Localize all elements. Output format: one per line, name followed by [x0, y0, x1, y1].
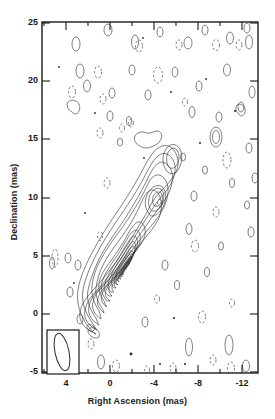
- restoring-beam: [47, 330, 79, 374]
- y-tick-label-0: 0: [12, 308, 38, 318]
- x-tick-label-0: 0: [95, 378, 125, 388]
- x-tick-label-m4: -4: [139, 378, 169, 388]
- plot-frame: [42, 22, 258, 373]
- x-tick-label-m8: -8: [183, 378, 213, 388]
- contour-map-figure: [0, 0, 275, 419]
- y-tick-label-20: 20: [12, 75, 38, 85]
- x-axis-title: Right Ascension (mas): [0, 396, 275, 406]
- y-axis-title: Declination (mas): [9, 102, 19, 302]
- y-tick-label-m5: -5: [12, 366, 38, 376]
- x-tick-label-m12: -12: [227, 378, 257, 388]
- y-tick-label-25: 25: [12, 17, 38, 27]
- x-tick-label-4: 4: [51, 378, 81, 388]
